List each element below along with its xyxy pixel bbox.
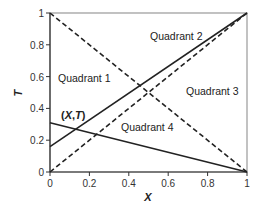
y-tick-label: 1 (38, 8, 44, 19)
quadrant-1-label: Quadrant 1 (58, 72, 111, 84)
y-axis-title: T (12, 88, 24, 96)
x-tick-label: 0.8 (201, 178, 215, 189)
x-tick-label: 1 (244, 178, 250, 189)
x-tick-label: 0.4 (122, 178, 136, 189)
y-tick-label: 0.4 (30, 103, 44, 114)
quadrant-3-label: Quadrant 3 (186, 85, 239, 97)
quadrant-chart: 0 0.2 0.4 0.6 0.8 1 0 0.2 0.4 0.6 0.8 1 … (0, 0, 258, 208)
x-tick-label: 0.6 (161, 178, 175, 189)
point-annotation: (X,T) (61, 109, 86, 121)
x-axis-title: X (143, 191, 152, 203)
y-tick-label: 0.8 (30, 40, 44, 51)
y-tick-label: 0 (38, 167, 44, 178)
x-tick-label: 0.2 (82, 178, 96, 189)
x-tick-label: 0 (47, 178, 53, 189)
quadrant-2-label: Quadrant 2 (150, 30, 203, 42)
x-ticks (50, 172, 247, 176)
quadrant-4-label: Quadrant 4 (121, 121, 174, 133)
y-tick-label: 0.6 (30, 72, 44, 83)
y-tick-label: 0.2 (30, 135, 44, 146)
